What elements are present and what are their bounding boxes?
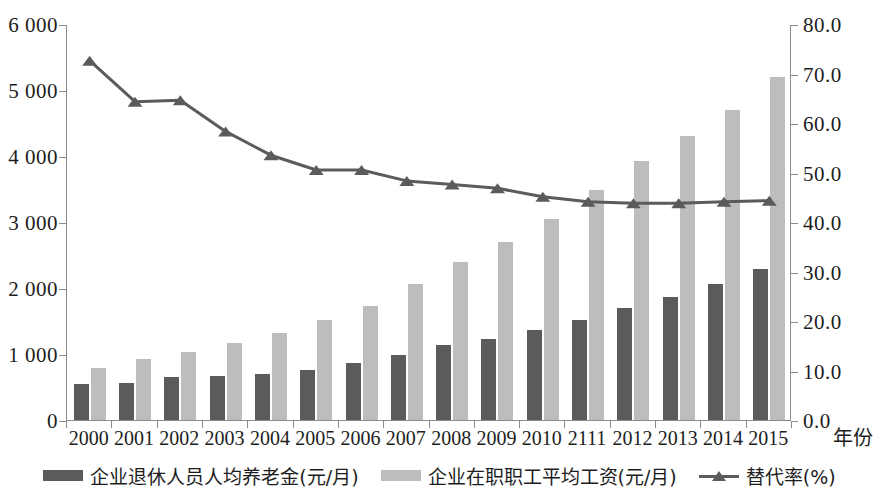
x-axis-tick-label: 2005	[295, 428, 335, 448]
legend-label-replacement-rate: 替代率(%)	[746, 462, 836, 489]
y-axis-left-tick-label: 5 000	[0, 81, 58, 102]
line-series-replacement-rate	[67, 25, 792, 421]
y-axis-right-tick-mark	[791, 273, 798, 274]
x-axis-tick-label: 2002	[159, 428, 199, 448]
y-axis-right-tick-label: 60.0	[803, 114, 842, 135]
x-axis-tick-label: 2003	[205, 428, 245, 448]
x-axis-tick-mark	[247, 421, 248, 428]
y-axis-right-tick-label: 0.0	[803, 411, 831, 432]
y-axis-right-tick-mark	[791, 25, 798, 26]
x-axis-tick-mark	[474, 421, 475, 428]
y-axis-right-tick-mark	[791, 421, 798, 422]
x-axis-tick-mark	[111, 421, 112, 428]
x-axis-tick-label: 2007	[386, 428, 426, 448]
x-axis-tick-label: 2008	[431, 428, 471, 448]
y-axis-left-tick-mark	[59, 421, 66, 422]
y-axis-left-tick-label: 6 000	[0, 15, 58, 36]
y-axis-left-tick-mark	[59, 157, 66, 158]
y-axis-right-tick-mark	[791, 75, 798, 76]
line-path	[90, 61, 770, 204]
x-axis-tick-mark	[610, 421, 611, 428]
y-axis-left-tick-mark	[59, 223, 66, 224]
y-axis-right-tick-label: 40.0	[803, 213, 842, 234]
line-marker-triangle	[82, 56, 97, 66]
x-axis-tick-mark	[293, 421, 294, 428]
x-axis-tick-mark	[746, 421, 747, 428]
plot-inner	[67, 25, 790, 420]
light-bar-swatch-icon	[381, 470, 421, 481]
x-axis-tick-label: 2013	[658, 428, 698, 448]
y-axis-left-tick-label: 1 000	[0, 345, 58, 366]
y-axis-right-tick-mark	[791, 372, 798, 373]
x-axis-tick-mark	[202, 421, 203, 428]
x-axis-tick-mark	[655, 421, 656, 428]
legend-label-pension: 企业退休人员人均养老金(元/月)	[90, 462, 358, 489]
x-axis-tick-mark	[157, 421, 158, 428]
y-axis-right-tick-label: 20.0	[803, 312, 842, 333]
x-axis-tick-mark	[700, 421, 701, 428]
y-axis-right-tick-mark	[791, 322, 798, 323]
chart-container: 01 0002 0003 0004 0005 0006 000 0.010.02…	[0, 0, 879, 489]
y-axis-left-tick-mark	[59, 289, 66, 290]
x-axis-tick-label: 2004	[250, 428, 290, 448]
x-axis-tick-label: 2000	[69, 428, 109, 448]
y-axis-left-tick-mark	[59, 25, 66, 26]
y-axis-right-tick-mark	[791, 174, 798, 175]
x-axis-tick-label: 2010	[522, 428, 562, 448]
line-triangle-swatch-icon	[699, 470, 739, 482]
x-axis-tick-label: 2012	[612, 428, 652, 448]
x-axis-tick-label: 2009	[476, 428, 516, 448]
x-axis-tick-label: 2001	[114, 428, 154, 448]
y-axis-right-tick-label: 30.0	[803, 262, 842, 283]
y-axis-right-tick-label: 80.0	[803, 15, 842, 36]
x-axis-tick-label: 2015	[748, 428, 788, 448]
x-axis-tick-label: 2014	[703, 428, 743, 448]
legend-item-pension: 企业退休人员人均养老金(元/月)	[43, 462, 358, 489]
x-axis-tick-mark	[338, 421, 339, 428]
y-axis-left-tick-label: 3 000	[0, 213, 58, 234]
x-axis-tick-label: 2111	[568, 428, 607, 448]
legend-label-wage: 企业在职职工平均工资(元/月)	[428, 462, 677, 489]
y-axis-right-tick-label: 10.0	[803, 361, 842, 382]
legend-item-replacement-rate: 替代率(%)	[699, 462, 836, 489]
y-axis-left-tick-mark	[59, 355, 66, 356]
y-axis-right-tick-mark	[791, 124, 798, 125]
y-axis-left-tick-label: 2 000	[0, 279, 58, 300]
y-axis-right-tick-mark	[791, 223, 798, 224]
x-axis-tick-mark	[429, 421, 430, 428]
y-axis-right-tick-label: 50.0	[803, 163, 842, 184]
x-axis-tick-mark	[564, 421, 565, 428]
dark-bar-swatch-icon	[43, 470, 83, 481]
y-axis-left-tick-label: 0	[0, 411, 58, 432]
plot-area	[66, 25, 791, 421]
legend-item-wage: 企业在职职工平均工资(元/月)	[381, 462, 677, 489]
y-axis-right-tick-label: 70.0	[803, 64, 842, 85]
chart-legend: 企业退休人员人均养老金(元/月) 企业在职职工平均工资(元/月) 替代率(%)	[0, 462, 879, 489]
y-axis-left-tick-label: 4 000	[0, 147, 58, 168]
x-axis-tick-mark	[66, 421, 67, 428]
x-axis-title: 年份	[833, 428, 873, 448]
x-axis-tick-mark	[519, 421, 520, 428]
y-axis-left-tick-mark	[59, 91, 66, 92]
x-axis-tick-label: 2006	[341, 428, 381, 448]
x-axis-tick-mark	[383, 421, 384, 428]
x-axis-tick-mark	[791, 421, 792, 428]
